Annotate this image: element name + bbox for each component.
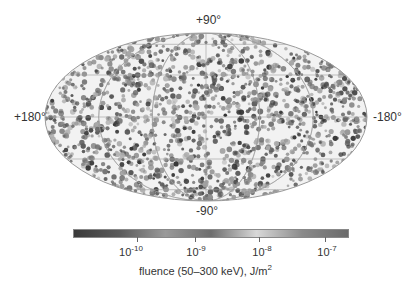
colorbar-tick-label: 10-7: [317, 244, 336, 258]
colorbar-tick: [137, 237, 138, 242]
colorbar-tick: [195, 237, 196, 242]
colorbar-tick-label: 10-9: [186, 244, 205, 258]
longitude-label-right: -180°: [373, 110, 402, 124]
longitude-label-left: +180°: [14, 110, 46, 124]
latitude-label-top: +90°: [196, 13, 221, 27]
latitude-label-bottom: -90°: [196, 204, 218, 218]
colorbar-tick: [259, 237, 260, 242]
colorbar: [73, 229, 349, 238]
colorbar-tick-label: 10-8: [252, 244, 271, 258]
colorbar-title: fluence (50–300 keV), J/m2: [0, 263, 411, 277]
colorbar-tick: [325, 237, 326, 242]
colorbar-tick-label: 10-10: [119, 244, 143, 258]
